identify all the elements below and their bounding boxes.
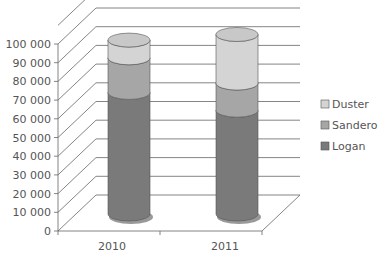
legend: DusterSanderoLogan bbox=[321, 98, 378, 153]
x-tick-label: 2011 bbox=[211, 240, 239, 253]
y-tick-label: 0 bbox=[44, 225, 51, 238]
cylinders bbox=[108, 27, 261, 224]
y-tick-label: 10 000 bbox=[13, 206, 52, 219]
y-tick-label: 100 000 bbox=[6, 38, 52, 51]
legend-swatch bbox=[321, 142, 329, 150]
stacked-cylinder-chart: 010 00020 00030 00040 00050 00060 00070 … bbox=[0, 0, 378, 261]
gridlines bbox=[58, 0, 300, 231]
legend-item-duster: Duster bbox=[321, 98, 369, 111]
y-tick-label: 30 000 bbox=[13, 169, 52, 182]
segment-logan bbox=[216, 110, 258, 221]
legend-label: Logan bbox=[332, 140, 365, 153]
y-tick-label: 20 000 bbox=[13, 188, 52, 201]
x-axis-labels: 20102011 bbox=[98, 240, 239, 253]
cylinder-2011 bbox=[216, 27, 261, 224]
legend-swatch bbox=[321, 121, 329, 129]
segment-duster bbox=[216, 34, 258, 90]
y-tick-label: 90 000 bbox=[13, 57, 52, 70]
y-tick-label: 80 000 bbox=[13, 75, 52, 88]
segment-logan bbox=[108, 92, 150, 221]
y-tick-label: 70 000 bbox=[13, 94, 52, 107]
y-tick-label: 50 000 bbox=[13, 132, 52, 145]
x-tick-label: 2010 bbox=[98, 240, 126, 253]
legend-label: Duster bbox=[332, 98, 369, 111]
cylinder-top bbox=[108, 33, 150, 47]
cylinder-top bbox=[216, 27, 258, 41]
legend-label: Sandero bbox=[332, 119, 378, 132]
y-tick-label: 60 000 bbox=[13, 113, 52, 126]
legend-swatch bbox=[321, 100, 329, 108]
legend-item-sandero: Sandero bbox=[321, 119, 378, 132]
cylinder-2010 bbox=[108, 33, 153, 224]
legend-item-logan: Logan bbox=[321, 140, 365, 153]
y-tick-label: 40 000 bbox=[13, 150, 52, 163]
